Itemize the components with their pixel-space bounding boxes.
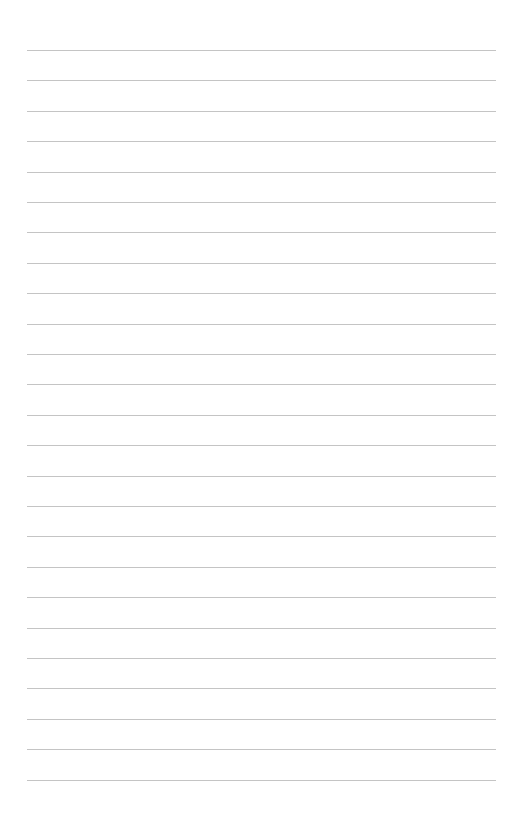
ruled-line [27, 293, 496, 294]
ruled-line [27, 354, 496, 355]
ruled-line [27, 50, 496, 51]
ruled-line [27, 384, 496, 385]
ruled-line [27, 506, 496, 507]
ruled-line [27, 202, 496, 203]
ruled-line [27, 415, 496, 416]
ruled-line [27, 476, 496, 477]
ruled-line [27, 780, 496, 781]
ruled-line [27, 80, 496, 81]
ruled-line [27, 536, 496, 537]
ruled-line [27, 172, 496, 173]
ruled-line [27, 719, 496, 720]
ruled-line [27, 658, 496, 659]
ruled-line [27, 597, 496, 598]
ruled-line [27, 628, 496, 629]
ruled-line [27, 263, 496, 264]
ruled-line [27, 111, 496, 112]
ruled-line [27, 324, 496, 325]
ruled-line [27, 232, 496, 233]
ruled-line [27, 749, 496, 750]
ruled-line [27, 688, 496, 689]
ruled-line [27, 445, 496, 446]
lined-paper-page [0, 0, 524, 836]
ruled-line [27, 141, 496, 142]
ruled-line [27, 567, 496, 568]
